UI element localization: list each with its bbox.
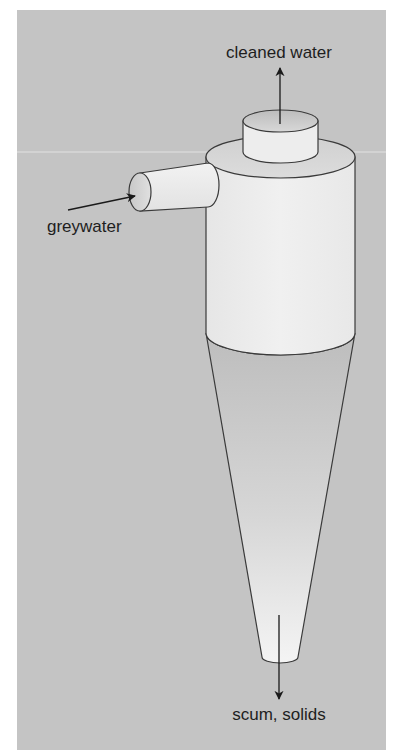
greywater-label: greywater	[47, 217, 122, 236]
inlet-pipe-opening	[129, 173, 151, 211]
scum-solids-label: scum, solids	[232, 705, 326, 724]
cleaned-water-label: cleaned water	[226, 43, 332, 62]
main-cylinder	[206, 136, 355, 355]
hydrocyclone-diagram: cleaned water greywater scum, solids	[0, 0, 408, 753]
